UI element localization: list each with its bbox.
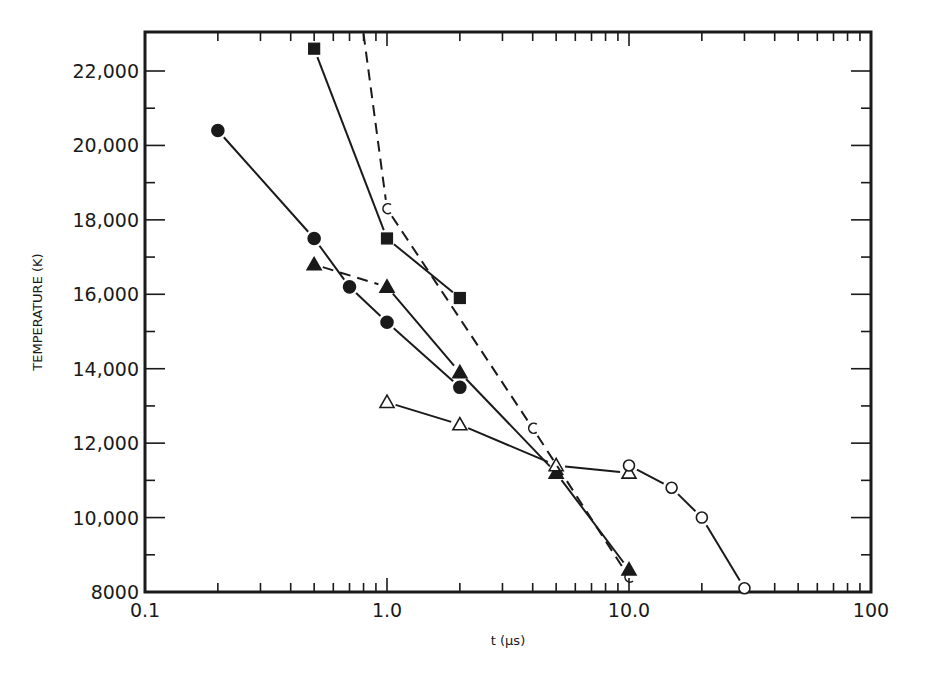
x-tick-label: 100 — [853, 599, 889, 621]
open-circle-marker — [666, 482, 677, 493]
filled-circle-marker — [381, 316, 393, 328]
open-circle-marker — [696, 512, 707, 523]
x-tick-label: 1.0 — [372, 599, 402, 621]
filled-square-marker — [454, 293, 465, 304]
y-tick-label: 12,000 — [73, 432, 139, 454]
solid-connector — [466, 379, 550, 466]
filled-circle-marker — [212, 125, 224, 137]
filled-triangle-marker — [307, 258, 321, 270]
series-open-triangles — [380, 395, 636, 478]
solid-connector — [565, 466, 620, 472]
solid-connector — [224, 137, 308, 231]
solid-connector — [396, 405, 452, 422]
solid-connector — [394, 244, 453, 292]
plot-border — [145, 32, 871, 592]
open-triangle-marker — [380, 395, 394, 407]
y-tick-label: 14,000 — [73, 358, 139, 380]
open-triangle-marker — [453, 418, 467, 430]
solid-connector — [562, 480, 624, 562]
solid-connector — [319, 246, 344, 280]
x-tick-label: 0.1 — [130, 599, 160, 621]
data-series — [212, 34, 750, 594]
filled-square-marker — [309, 43, 320, 54]
filled-square-marker — [382, 233, 393, 244]
x-tick-label: 10.0 — [608, 599, 650, 621]
solid-connector — [637, 470, 664, 484]
dashed-connector — [538, 436, 625, 570]
y-axis-tick-labels: 800010,00012,00014,00016,00018,00020,000… — [73, 60, 139, 603]
solid-connector — [317, 57, 383, 230]
solid-connector — [356, 293, 380, 316]
open-c-marker — [529, 423, 537, 433]
series-open-circles-solid — [624, 460, 750, 594]
dashed-connector — [364, 34, 386, 200]
temperature-vs-time-chart: 800010,00012,00014,00016,00018,00020,000… — [0, 0, 927, 683]
x-axis-label: t (μs) — [491, 633, 525, 648]
series-filled-triangles — [307, 258, 636, 575]
open-c-marker — [383, 204, 391, 214]
open-triangle-marker — [549, 458, 563, 470]
solid-connector — [678, 494, 695, 511]
open-circle-marker — [739, 583, 750, 594]
plot-frame — [145, 32, 871, 592]
filled-triangle-marker — [380, 280, 394, 292]
filled-triangle-marker — [453, 365, 467, 377]
y-tick-label: 18,000 — [73, 209, 139, 231]
y-axis-label: TEMPERATURE (K) — [30, 253, 45, 371]
series-filled-circles — [212, 125, 466, 394]
filled-circle-marker — [308, 232, 320, 244]
axis-ticks — [145, 32, 871, 592]
y-tick-label: 20,000 — [73, 134, 139, 156]
filled-triangle-marker — [622, 563, 636, 575]
y-tick-label: 22,000 — [73, 60, 139, 82]
x-axis-tick-labels: 0.11.010.0100 — [130, 599, 889, 621]
solid-connector — [706, 525, 739, 580]
open-circle-marker — [624, 460, 635, 471]
filled-circle-marker — [454, 381, 466, 393]
y-tick-label: 10,000 — [73, 507, 139, 529]
y-tick-label: 16,000 — [73, 283, 139, 305]
filled-circle-marker — [344, 281, 356, 293]
